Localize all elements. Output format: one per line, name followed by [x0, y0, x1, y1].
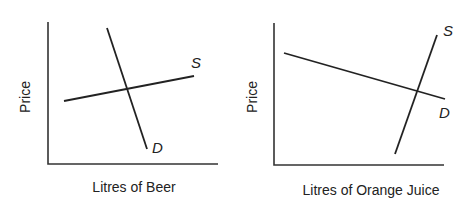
chart-beer: S D Price Litres of Beer — [17, 22, 218, 195]
figure: S D Price Litres of Beer S D Price Litre… — [0, 0, 469, 206]
x-axis-label: Litres of Beer — [92, 179, 176, 195]
demand-label: D — [439, 104, 450, 121]
axes — [274, 23, 444, 165]
y-axis-label: Price — [244, 81, 260, 113]
supply-label: S — [191, 54, 201, 71]
axes — [48, 22, 218, 164]
supply-label: S — [443, 22, 453, 39]
demand-label: D — [152, 139, 163, 156]
y-axis-label: Price — [17, 81, 33, 113]
chart-orange-juice: S D Price Litres of Orange Juice — [244, 22, 453, 198]
x-axis-label: Litres of Orange Juice — [303, 182, 440, 198]
demand-curve — [284, 53, 445, 99]
